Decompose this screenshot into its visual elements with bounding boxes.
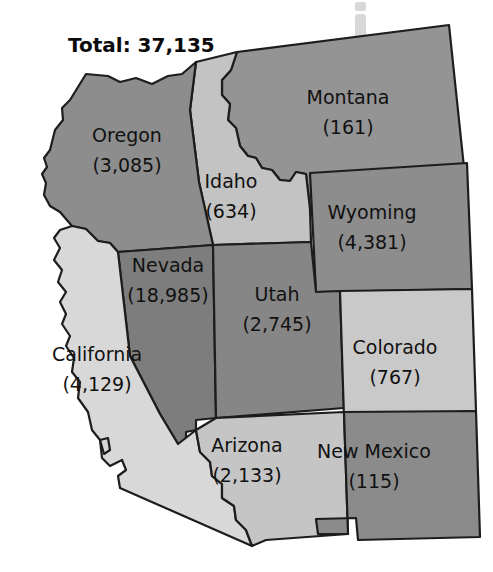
state-label-arizona-value: (2,133) [212, 464, 281, 486]
state-label-utah-name: Utah [254, 283, 299, 305]
state-label-oregon-value: (3,085) [92, 154, 161, 176]
state-label-california-value: (4,129) [62, 373, 131, 395]
state-label-nevada-name: Nevada [132, 254, 205, 276]
total-label: Total: 37,135 [68, 33, 215, 57]
state-label-new-mexico-value: (115) [348, 470, 399, 492]
state-label-utah-value: (2,745) [242, 313, 311, 335]
state-label-montana-value: (161) [322, 116, 373, 138]
state-label-california-name: California [52, 343, 142, 365]
state-label-nevada-value: (18,985) [127, 284, 208, 306]
state-label-colorado-value: (767) [369, 366, 420, 388]
map-canvas: Total: 37,135 Oregon (3,085) Montana (16… [0, 0, 493, 572]
state-label-colorado-name: Colorado [353, 336, 438, 358]
state-shape-wyoming[interactable] [310, 163, 472, 292]
scan-artifact-icon [355, 2, 366, 11]
state-label-new-mexico-name: New Mexico [317, 440, 431, 462]
state-label-arizona-name: Arizona [211, 434, 282, 456]
state-label-wyoming-name: Wyoming [327, 201, 416, 223]
state-label-idaho-value: (634) [205, 200, 256, 222]
state-label-wyoming-value: (4,381) [337, 231, 406, 253]
state-label-idaho-name: Idaho [205, 170, 258, 192]
western-states-map: Total: 37,135 Oregon (3,085) Montana (16… [0, 0, 493, 572]
state-label-montana-name: Montana [307, 86, 390, 108]
state-label-oregon-name: Oregon [92, 124, 162, 146]
